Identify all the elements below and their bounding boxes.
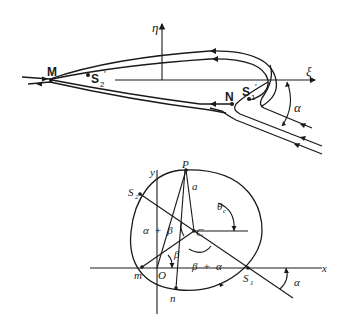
label-S1-sub: 1 — [251, 93, 256, 102]
flow-arrow-icon — [210, 101, 216, 107]
streamline-outer-lower-2 — [28, 82, 226, 113]
label-S2-prime: ' — [104, 69, 106, 79]
label-S1: S — [242, 85, 250, 99]
label-S2: S — [128, 186, 134, 198]
label-S2-sub: 2 — [100, 80, 105, 89]
alpha-arrow-icon — [285, 82, 290, 87]
beta-plus-alpha-arc — [189, 246, 211, 252]
point-S2-prime — [86, 73, 90, 77]
label-beta-lower: β — [173, 248, 180, 260]
point-S1 — [246, 266, 250, 270]
label-S1: S — [243, 272, 249, 284]
eta-label: η — [152, 20, 158, 35]
label-S2: S — [91, 72, 99, 86]
point-n — [174, 286, 178, 290]
point-S2 — [138, 192, 142, 196]
label-alpha-plus-beta: α + β — [143, 224, 173, 236]
label-S2-sub: 2 — [135, 193, 139, 201]
label-n: n — [170, 292, 176, 304]
alpha-arc — [282, 82, 291, 126]
beta-arrow-icon — [170, 263, 175, 268]
diagram-canvas: η ξ M S 2 ' N S 1 ' α — [0, 0, 344, 331]
label-S1-sub: 1 — [250, 279, 254, 287]
label-S1-prime: ' — [255, 82, 257, 92]
label-M: M — [47, 65, 57, 79]
top-panel: η ξ M S 2 ' N S 1 ' α — [22, 20, 322, 154]
bottom-panel: y x P C O m n S 2 S 1 a θ c α + β β β + … — [90, 158, 327, 314]
label-N: N — [225, 90, 234, 104]
streamline-outer-upper — [22, 51, 276, 106]
flow-arrow-icon — [212, 56, 218, 62]
label-radius-a: a — [192, 180, 198, 192]
label-m: m — [134, 269, 142, 281]
alpha-label-top: α — [294, 100, 302, 115]
label-alpha-bottom: α — [294, 276, 300, 288]
flow-arrow-icon — [210, 48, 216, 54]
label-P: P — [181, 158, 189, 170]
x-axis-label: x — [321, 262, 327, 274]
label-C: C — [196, 226, 204, 238]
label-beta-plus-alpha: β + α — [191, 260, 222, 272]
y-axis-label: y — [149, 166, 155, 178]
theta-arrow-icon — [232, 226, 237, 231]
label-O: O — [158, 269, 166, 281]
streamline-outer-lower — [210, 108, 322, 154]
xi-label: ξ — [306, 64, 312, 79]
line-m-C — [142, 231, 194, 267]
flow-arrow-icon — [300, 136, 306, 141]
flow-arrow-icon — [36, 82, 42, 87]
